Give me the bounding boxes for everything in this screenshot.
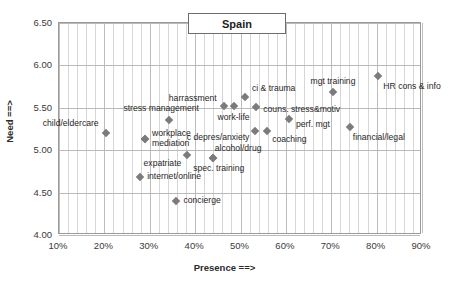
gridline-horizontal bbox=[59, 65, 420, 66]
gridline-vertical bbox=[250, 23, 251, 233]
data-point-label: work-life bbox=[218, 113, 250, 122]
y-tick-label: 6.00 bbox=[12, 59, 52, 70]
x-tick-label: 60% bbox=[265, 240, 305, 251]
gridline-vertical bbox=[413, 23, 414, 233]
data-point-label: mediation bbox=[152, 140, 189, 149]
x-tick-label: 80% bbox=[356, 240, 396, 251]
x-tick-label: 20% bbox=[83, 240, 123, 251]
x-tick-label: 30% bbox=[129, 240, 169, 251]
gridline-vertical bbox=[422, 23, 423, 233]
gridline-vertical bbox=[259, 23, 260, 233]
gridline-vertical bbox=[222, 23, 223, 233]
data-point-label: c depres/anxiety bbox=[187, 133, 250, 142]
gridline-vertical bbox=[277, 23, 278, 233]
x-tick-label: 70% bbox=[310, 240, 350, 251]
data-point-label: harrassment bbox=[169, 94, 217, 103]
gridline-vertical bbox=[123, 23, 124, 233]
x-axis-title: Presence ==> bbox=[0, 262, 449, 273]
gridline-vertical bbox=[231, 23, 232, 233]
x-tick-label: 40% bbox=[174, 240, 214, 251]
scatter-chart: Spain Need ==> Presence ==> 4.004.505.00… bbox=[0, 0, 449, 288]
gridline-vertical bbox=[368, 23, 369, 233]
gridline-horizontal bbox=[59, 235, 420, 236]
y-tick-label: 4.00 bbox=[12, 229, 52, 240]
data-point-label: coaching bbox=[272, 136, 306, 145]
data-point-label: couns. stress&motiv bbox=[263, 105, 340, 114]
gridline-vertical bbox=[241, 23, 242, 233]
data-point-label: spec. training bbox=[193, 164, 244, 173]
gridline-vertical bbox=[286, 23, 287, 233]
gridline-vertical bbox=[150, 23, 151, 233]
data-point-label: expatriate bbox=[144, 160, 182, 169]
gridline-horizontal bbox=[59, 193, 420, 194]
x-tick-label: 10% bbox=[38, 240, 78, 251]
data-point-label: alcohol/drug bbox=[215, 144, 262, 153]
data-point-label: perf. mgt bbox=[296, 120, 330, 129]
data-point-label: concierge bbox=[184, 196, 221, 205]
data-point-label: child/eldercare bbox=[43, 120, 99, 129]
gridline-vertical bbox=[132, 23, 133, 233]
y-tick-label: 5.50 bbox=[12, 101, 52, 112]
gridline-vertical bbox=[340, 23, 341, 233]
gridline-vertical bbox=[113, 23, 114, 233]
data-point-label: mgt training bbox=[311, 77, 356, 86]
y-tick-label: 4.50 bbox=[12, 186, 52, 197]
plot-area bbox=[58, 22, 421, 234]
gridline-vertical bbox=[141, 23, 142, 233]
data-point-label: HR cons & info bbox=[383, 83, 440, 92]
gridline-vertical bbox=[386, 23, 387, 233]
data-point-label: financial/legal bbox=[353, 134, 405, 143]
gridline-vertical bbox=[377, 23, 378, 233]
chart-title: Spain bbox=[188, 13, 286, 34]
y-tick-label: 6.50 bbox=[12, 17, 52, 28]
x-tick-label: 90% bbox=[401, 240, 441, 251]
data-point-label: stress management bbox=[123, 105, 198, 114]
gridline-horizontal bbox=[59, 108, 420, 109]
x-tick-label: 50% bbox=[220, 240, 260, 251]
gridline-vertical bbox=[331, 23, 332, 233]
gridline-vertical bbox=[395, 23, 396, 233]
data-point-label: internet/online bbox=[147, 173, 201, 182]
gridline-vertical bbox=[404, 23, 405, 233]
gridline-vertical bbox=[358, 23, 359, 233]
y-tick-label: 5.00 bbox=[12, 144, 52, 155]
data-point-label: ci & trauma bbox=[252, 84, 295, 93]
data-point-label: workplace bbox=[152, 130, 191, 139]
